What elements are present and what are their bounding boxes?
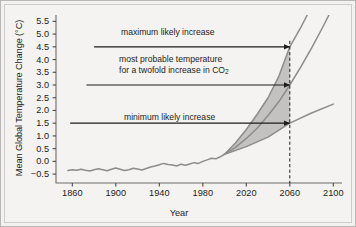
annotation-probable-line1: most probable temperature xyxy=(119,54,222,64)
figure-container: Mean Global Temperature Change (°C) Year… xyxy=(0,0,356,227)
x-axis-title: Year xyxy=(1,208,356,218)
annotation-probable-subscript: 2 xyxy=(225,68,229,75)
y-tick-label: 4.5 xyxy=(23,42,49,52)
y-tick-label: 3.5 xyxy=(23,67,49,77)
x-tick-label: 1900 xyxy=(96,188,136,198)
y-tick-label: 4.0 xyxy=(23,55,49,65)
x-tick-label: 1860 xyxy=(52,188,92,198)
x-tick-label: 2020 xyxy=(226,188,266,198)
axis-frame xyxy=(56,15,342,183)
annotation-maximum-likely-increase: maximum likely increase xyxy=(121,27,215,38)
annotation-most-probable-temperature: most probable temperature for a twofold … xyxy=(119,54,229,78)
annotation-probable-line2: for a twofold increase in CO xyxy=(119,65,225,75)
y-tick-label: 1.0 xyxy=(23,131,49,141)
x-tick-label: 1980 xyxy=(183,188,223,198)
x-tick-label: 2100 xyxy=(313,188,353,198)
axis-ticks xyxy=(53,21,334,186)
x-tick-label: 1940 xyxy=(139,188,179,198)
y-tick-label: 2.5 xyxy=(23,93,49,103)
y-tick-label: 1.5 xyxy=(23,118,49,128)
y-tick-label: 3.0 xyxy=(23,80,49,90)
y-tick-label: 2.0 xyxy=(23,105,49,115)
x-tick-label: 2060 xyxy=(270,188,310,198)
y-tick-label: 0.5 xyxy=(23,144,49,154)
y-tick-label: −0.5 xyxy=(23,169,49,179)
annotation-minimum-likely-increase: minimum likely increase xyxy=(124,112,215,123)
data-series-lines xyxy=(68,15,333,171)
y-tick-label: 5.0 xyxy=(23,29,49,39)
y-tick-label: 0.0 xyxy=(23,156,49,166)
y-tick-label: 5.5 xyxy=(23,16,49,26)
